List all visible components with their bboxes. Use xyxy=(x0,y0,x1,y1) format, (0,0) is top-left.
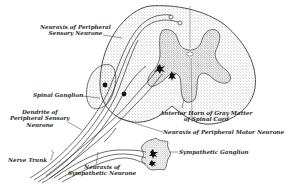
sympathetic-ganglion xyxy=(142,138,171,170)
label-neuraxis-sympathetic: Neuraxis of Sympathetic Neurone xyxy=(68,164,136,177)
label-sympathetic-ganglion: Sympathetic Ganglion xyxy=(179,149,248,155)
central-canal xyxy=(187,52,193,56)
label-dendrite: Dendrite of Peripheral Sensory Neurone xyxy=(10,109,70,128)
neuron-diagram: Neuraxis of Peripheral Sensory Neurone S… xyxy=(0,0,289,184)
label-spinal-ganglion: Spinal Ganglion xyxy=(33,92,83,98)
label-neuraxis-sensory: Neuraxis of Peripheral Sensory Neurone xyxy=(40,24,111,37)
label-anterior-horn: Anterior Horn of Gray Matter of Spinal C… xyxy=(160,110,252,123)
label-nerve-trunk: Nerve Trunk xyxy=(8,157,47,163)
label-neuraxis-motor: Neuraxis of Peripheral Motor Neurone xyxy=(163,129,284,135)
